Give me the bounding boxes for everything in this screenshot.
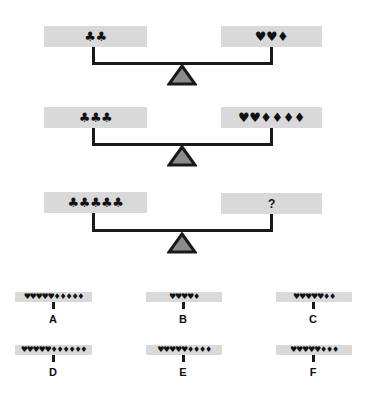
- option-b-symbols: ♥♥♥♥♦: [169, 293, 199, 301]
- option-d-label: D: [43, 366, 63, 378]
- scale-2-right-pan: ♥♥♦♦♦♦: [221, 107, 322, 128]
- scale-3-left-pan: ♣♣♣♣♣: [44, 192, 147, 213]
- option-d-pan: ♥♥♥♥♥♦♦♦♦♦♦: [15, 345, 92, 355]
- option-a-symbols: ♥♥♥♥♥♦♦♦♦♦: [24, 293, 84, 301]
- option-a-pan: ♥♥♥♥♥♦♦♦♦♦: [15, 292, 92, 302]
- option-d-stem: [52, 355, 55, 362]
- scale-2-fulcrum-icon: [167, 145, 197, 167]
- scale-3-right-pan: ?: [221, 193, 322, 214]
- option-b-label: B: [173, 313, 193, 325]
- option-c-pan: ♥♥♥♥♥♦♦: [276, 292, 352, 302]
- scale-3-fulcrum-icon: [167, 232, 197, 254]
- scale-1-fulcrum-icon: [167, 64, 197, 86]
- option-f-pan: ♥♥♥♥♥♦♦♦: [276, 345, 352, 355]
- scale-1-left-pan: ♣♣: [44, 26, 147, 47]
- option-f-symbols: ♥♥♥♥♥♦♦♦: [290, 346, 338, 354]
- option-e-pan: ♥♥♥♥♥♦♦♦♦: [146, 345, 222, 355]
- option-c-stem: [312, 302, 315, 309]
- question-mark: ?: [268, 198, 275, 210]
- option-c-symbols: ♥♥♥♥♥♦♦: [293, 293, 335, 301]
- option-b-pan: ♥♥♥♥♦: [146, 292, 222, 302]
- option-f-stem: [312, 355, 315, 362]
- option-a-label: A: [43, 313, 63, 325]
- scale-1-right-symbols: ♥♥♦: [255, 30, 288, 43]
- scale-1-left-symbols: ♣♣: [84, 30, 106, 43]
- scale-2-left-symbols: ♣♣♣: [79, 111, 112, 124]
- option-e-symbols: ♥♥♥♥♥♦♦♦♦: [157, 346, 211, 354]
- scale-2-right-symbols: ♥♥♦♦♦♦: [238, 111, 305, 124]
- option-e-stem: [182, 355, 185, 362]
- option-d-symbols: ♥♥♥♥♥♦♦♦♦♦♦: [21, 346, 87, 354]
- scale-2-left-pan: ♣♣♣: [44, 107, 147, 128]
- option-c-label: C: [303, 313, 323, 325]
- option-a-stem: [52, 302, 55, 309]
- scale-1-right-pan: ♥♥♦: [221, 26, 322, 47]
- scale-3-left-symbols: ♣♣♣♣♣: [68, 196, 124, 209]
- option-e-label: E: [173, 366, 193, 378]
- option-f-label: F: [303, 366, 323, 378]
- option-b-stem: [182, 302, 185, 309]
